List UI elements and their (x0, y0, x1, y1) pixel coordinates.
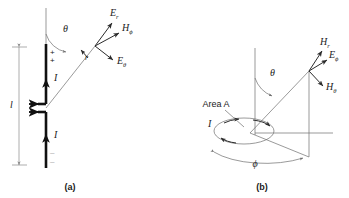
field-label-ephi: Eϕ (328, 49, 339, 62)
phi-arc-b (214, 152, 303, 163)
current-label-lower: I (53, 129, 58, 140)
caption-a: (a) (65, 182, 76, 192)
field-vector-etheta (95, 46, 113, 60)
panel-b: Area A I θ ϕ Hr Eϕ Hθ (b) (202, 36, 339, 192)
field-vector-ephi (309, 60, 327, 71)
panel-a: + + – – I I l θ r Er (10, 7, 133, 192)
current-label-upper: I (53, 72, 58, 83)
radial-line-b (250, 71, 309, 133)
figure-svg: + + – – I I l θ r Er (0, 0, 349, 198)
field-vector-hphi (95, 33, 119, 46)
charge-minus-1: – (50, 148, 55, 157)
length-label: l (10, 99, 13, 110)
loop-current-label: I (207, 118, 212, 129)
charge-minus-2: – (50, 157, 55, 166)
theta-label-b: θ (270, 67, 275, 78)
field-label-hphi: Hϕ (121, 22, 133, 35)
field-vector-htheta (309, 71, 323, 86)
caption-b: (b) (256, 182, 268, 192)
theta-arc-a (46, 34, 66, 52)
area-label: Area A (202, 99, 229, 109)
projection-ground-b (250, 133, 309, 157)
area-leader-line (225, 110, 244, 127)
field-vector-er (95, 23, 112, 46)
theta-arc-b (255, 78, 272, 96)
phi-label-b: ϕ (252, 158, 257, 169)
charge-plus-2: + (50, 56, 55, 65)
field-vector-hr (309, 51, 322, 71)
field-label-etheta: Eθ (116, 55, 127, 68)
loop-current-arrow-1 (224, 119, 239, 123)
figure-container: + + – – I I l θ r Er (0, 0, 349, 198)
field-label-hr: Hr (319, 36, 330, 49)
theta-label-a: θ (63, 23, 68, 34)
field-label-er: Er (109, 7, 119, 20)
field-label-htheta: Hθ (325, 81, 337, 94)
current-loop (214, 118, 274, 144)
